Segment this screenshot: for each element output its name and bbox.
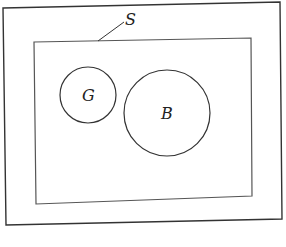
set-b-label: B [160,104,173,123]
set-s-pointer [98,22,124,41]
outer-frame [3,2,282,225]
universal-set-rectangle [34,38,252,204]
set-s-label: S [125,10,136,29]
venn-diagram: S G B [0,0,286,247]
set-g-label: G [82,86,95,105]
